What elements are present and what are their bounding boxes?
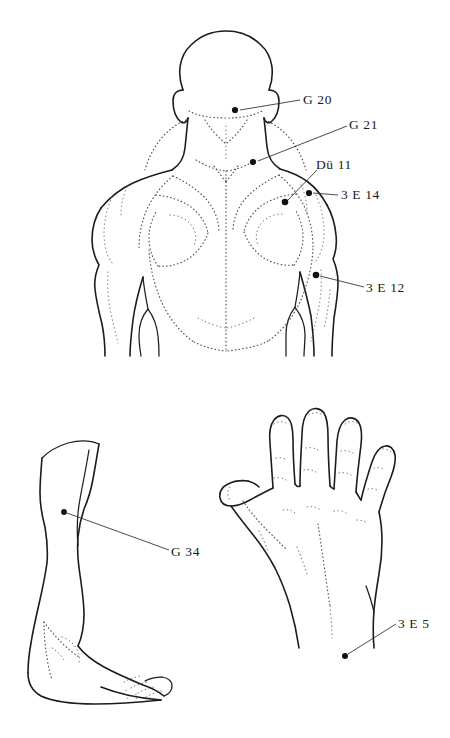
label-3e12: 3 E 12 — [366, 281, 405, 295]
leader-3e14 — [313, 193, 338, 195]
panel-upper-back — [92, 31, 364, 356]
panel-hand — [220, 409, 396, 659]
figure-canvas — [0, 0, 450, 738]
leader-g21 — [258, 126, 347, 161]
leader-3e12 — [320, 276, 364, 287]
label-g34: G 34 — [171, 545, 200, 559]
label-3e14: 3 E 14 — [341, 188, 380, 202]
leader-g20 — [240, 100, 300, 110]
label-g21: G 21 — [349, 118, 378, 132]
acupoint-g34 — [61, 509, 67, 515]
acupoint-3e12 — [313, 272, 320, 279]
label-g20: G 20 — [303, 93, 332, 107]
acupoint-3e5 — [342, 653, 348, 659]
panel-lower-leg — [28, 441, 172, 704]
acupoint-g21 — [250, 159, 256, 165]
leader-g34 — [67, 513, 169, 550]
leader-3e5 — [348, 624, 396, 654]
acupoints-upper-back — [232, 107, 319, 278]
label-du11: Dü 11 — [316, 158, 352, 172]
acupoint-g20 — [232, 107, 238, 113]
acupoint-3e14 — [306, 190, 312, 196]
acupuncture-figure: G 20 G 21 Dü 11 3 E 14 3 E 12 G 34 3 E 5 — [0, 0, 450, 738]
label-3e5: 3 E 5 — [398, 617, 430, 631]
acupoint-du11 — [282, 199, 289, 206]
